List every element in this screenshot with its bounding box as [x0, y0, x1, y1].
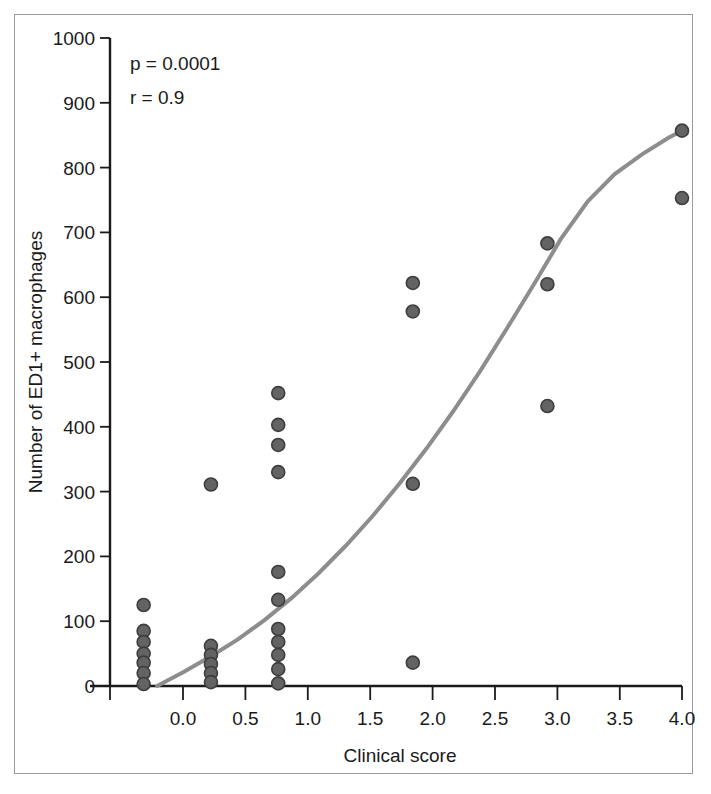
- x-tick-label: 0.0: [170, 708, 196, 729]
- y-tick-label: 0: [84, 676, 95, 697]
- data-point: [272, 622, 285, 635]
- data-point: [541, 278, 554, 291]
- data-points-layer: [137, 124, 688, 690]
- y-tick-label: 500: [63, 352, 95, 373]
- data-point: [137, 599, 150, 612]
- x-tick-label: 3.5: [607, 708, 633, 729]
- x-tick-label: 4.0: [669, 708, 695, 729]
- data-point: [406, 276, 419, 289]
- data-point: [406, 656, 419, 669]
- y-tick-label: 200: [63, 546, 95, 567]
- x-tick-label: 1.5: [357, 708, 383, 729]
- y-tick-label: 300: [63, 482, 95, 503]
- figure-root: 0 100 200 300 400 500 600 700 800 900 10…: [0, 0, 711, 794]
- y-tick-label: 800: [63, 158, 95, 179]
- x-tick-label: 3.0: [544, 708, 570, 729]
- data-point: [272, 663, 285, 676]
- data-point: [204, 676, 217, 689]
- p-value-annotation: p = 0.0001: [130, 53, 220, 74]
- data-point: [676, 124, 689, 137]
- data-point: [406, 477, 419, 490]
- y-tick-label: 400: [63, 417, 95, 438]
- data-point: [676, 192, 689, 205]
- x-axis-ticks: 0.0 0.5 1.0 1.5 2.0 2.5 3.0 3.5 4.0: [110, 686, 695, 729]
- y-tick-label: 1000: [53, 28, 95, 49]
- data-point: [137, 678, 150, 691]
- y-tick-label: 700: [63, 222, 95, 243]
- x-tick-label: 1.0: [295, 708, 321, 729]
- x-axis-title: Clinical score: [344, 745, 457, 766]
- x-tick-label: 0.5: [232, 708, 258, 729]
- x-tick-label: 2.5: [482, 708, 508, 729]
- data-point: [406, 305, 419, 318]
- y-axis-ticks: 0 100 200 300 400 500 600 700 800 900 10…: [53, 28, 110, 697]
- data-point: [272, 466, 285, 479]
- fit-curve: [157, 131, 682, 686]
- r-value-annotation: r = 0.9: [130, 87, 184, 108]
- data-point: [541, 400, 554, 413]
- y-tick-label: 600: [63, 287, 95, 308]
- data-point: [272, 438, 285, 451]
- data-point: [272, 677, 285, 690]
- y-tick-label: 900: [63, 93, 95, 114]
- axes-lines: [90, 38, 682, 686]
- data-point: [272, 418, 285, 431]
- x-tick-label: 2.0: [419, 708, 445, 729]
- data-point: [541, 237, 554, 250]
- scatter-plot: 0 100 200 300 400 500 600 700 800 900 10…: [0, 0, 711, 794]
- data-point: [272, 648, 285, 661]
- data-point: [204, 478, 217, 491]
- data-point: [272, 635, 285, 648]
- y-tick-label: 100: [63, 611, 95, 632]
- data-point: [272, 565, 285, 578]
- y-axis-title: Number of ED1+ macrophages: [25, 231, 46, 493]
- data-point: [272, 387, 285, 400]
- data-point: [272, 593, 285, 606]
